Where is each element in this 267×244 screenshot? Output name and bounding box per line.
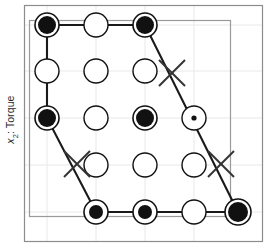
marker-m-r2-c2 xyxy=(84,59,108,83)
marker-m-r5-c2 xyxy=(84,200,108,224)
filled-core xyxy=(138,205,152,219)
open-circle-marker xyxy=(133,153,157,177)
marker-m-r1-c3 xyxy=(133,13,157,37)
plot-canvas xyxy=(0,0,267,244)
filled-core xyxy=(89,205,103,219)
open-circle-marker xyxy=(133,59,157,83)
open-circle-marker xyxy=(84,59,108,83)
marker-m-r5-c3 xyxy=(133,200,157,224)
open-circle-marker xyxy=(182,153,206,177)
cross-x-upper-right xyxy=(159,60,185,86)
data-markers xyxy=(35,13,251,225)
marker-m-r1-c1 xyxy=(35,13,59,37)
marker-m-r4-c4 xyxy=(182,153,206,177)
marker-m-r2-c1 xyxy=(35,59,59,83)
marker-m-r1-c2 xyxy=(84,13,108,37)
scatter-figure: x2: Torque xyxy=(0,0,267,244)
marker-m-r3-c1 xyxy=(35,106,59,130)
center-dot xyxy=(191,115,196,120)
filled-core xyxy=(228,202,248,222)
filled-core xyxy=(136,109,154,127)
filled-core xyxy=(38,109,56,127)
open-circle-marker xyxy=(35,59,59,83)
marker-m-r2-c3 xyxy=(133,59,157,83)
open-circle-marker xyxy=(84,106,108,130)
open-circle-marker xyxy=(84,13,108,37)
marker-m-r3-c2 xyxy=(84,106,108,130)
open-circle-marker xyxy=(182,200,206,224)
marker-m-r3-c3 xyxy=(133,106,157,130)
marker-m-r3-c4 xyxy=(182,106,206,130)
marker-m-r5-c5 xyxy=(225,199,251,225)
filled-core xyxy=(38,16,56,34)
filled-core xyxy=(136,16,154,34)
marker-m-r5-c4 xyxy=(182,200,206,224)
marker-m-r4-c3 xyxy=(133,153,157,177)
